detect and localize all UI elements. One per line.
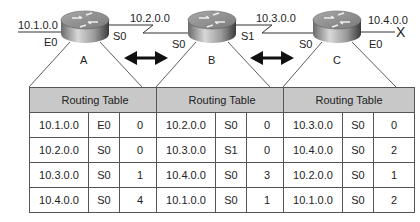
router-c-icon [313,11,361,43]
interface-cell: E0 [89,113,120,137]
hops-cell: 4 [120,188,160,212]
exchange-arrow-b-c-icon [250,51,294,65]
network-cell: 10.2.0.0 [284,163,343,187]
network-cell: 10.3.0.0 [284,113,343,137]
hops-cell: 2 [374,188,414,212]
network-cell: 10.4.0.0 [284,138,343,162]
iface-label-c-s0: S0 [299,38,312,50]
hops-cell: 3 [247,163,287,187]
table-row: 10.1.0.0 S0 1 [157,188,287,212]
iface-label-b-s1: S1 [241,30,254,42]
router-b-icon [188,11,236,43]
network-cell: 10.1.0.0 [157,188,216,212]
table-row: 10.1.0.0 S0 2 [284,188,414,212]
interface-cell: S0 [343,163,374,187]
router-a-icon [61,11,109,43]
interface-cell: S0 [89,188,120,212]
table-row: 10.4.0.0 S0 2 [284,138,414,163]
router-label-c: C [333,54,341,66]
network-cell: 10.3.0.0 [157,138,216,162]
interface-cell: S0 [343,188,374,212]
routing-table-title: Routing Table [284,88,414,113]
failed-network-x-icon: X [396,24,406,40]
table-row: 10.2.0.0 S0 0 [157,113,287,138]
network-label-10-2: 10.2.0.0 [130,12,170,24]
network-cell: 10.1.0.0 [30,113,89,137]
table-row: 10.3.0.0 S0 1 [30,163,160,188]
router-label-a: A [80,54,87,66]
table-row: 10.3.0.0 S0 0 [284,113,414,138]
network-cell: 10.4.0.0 [157,163,216,187]
router-label-b: B [208,54,215,66]
network-cell: 10.3.0.0 [30,163,89,187]
network-cell: 10.4.0.0 [30,188,89,212]
hops-cell: 1 [247,188,287,212]
interface-cell: S0 [216,163,247,187]
routing-table-a: Routing Table 10.1.0.0 E0 0 10.2.0.0 S0 … [29,87,161,213]
hops-cell: 0 [120,113,160,137]
hops-cell: 0 [247,138,287,162]
table-row: 10.4.0.0 S0 4 [30,188,160,212]
iface-label-c-e0: E0 [369,38,382,50]
network-cell: 10.1.0.0 [284,188,343,212]
table-row: 10.2.0.0 S0 1 [284,163,414,188]
iface-label-a-e0: E0 [44,36,57,48]
table-row: 10.3.0.0 S1 0 [157,138,287,163]
hops-cell: 0 [374,113,414,137]
interface-cell: S0 [343,138,374,162]
table-row: 10.1.0.0 E0 0 [30,113,160,138]
table-row: 10.2.0.0 S0 0 [30,138,160,163]
routing-table-b: Routing Table 10.2.0.0 S0 0 10.3.0.0 S1 … [156,87,288,213]
iface-label-a-s0: S0 [113,30,126,42]
hops-cell: 2 [374,138,414,162]
interface-cell: S0 [216,113,247,137]
interface-cell: S1 [216,138,247,162]
routing-table-title: Routing Table [157,88,287,113]
interface-cell: S0 [343,113,374,137]
hops-cell: 1 [374,163,414,187]
network-label-10-3: 10.3.0.0 [256,12,296,24]
network-label-10-1: 10.1.0.0 [18,19,58,31]
exchange-arrow-a-b-icon [124,51,168,65]
hops-cell: 1 [120,163,160,187]
routing-table-c: Routing Table 10.3.0.0 S0 0 10.4.0.0 S0 … [283,87,415,213]
table-row: 10.4.0.0 S0 3 [157,163,287,188]
network-cell: 10.2.0.0 [30,138,89,162]
iface-label-b-s0: S0 [172,38,185,50]
hops-cell: 0 [120,138,160,162]
routing-table-title: Routing Table [30,88,160,113]
interface-cell: S0 [89,163,120,187]
hops-cell: 0 [247,113,287,137]
network-cell: 10.2.0.0 [157,113,216,137]
interface-cell: S0 [216,188,247,212]
interface-cell: S0 [89,138,120,162]
network-label-10-4: 10.4.0.0 [368,14,408,26]
